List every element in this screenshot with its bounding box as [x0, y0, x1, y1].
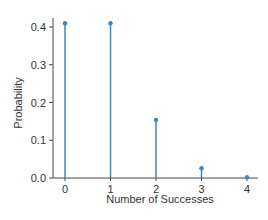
x-tick-label: 4 [244, 183, 250, 195]
stem-chart: 0.00.10.20.30.401234 Number of Successes… [0, 0, 268, 220]
stem-marker [199, 166, 203, 170]
y-axis-title: Probability [12, 77, 24, 129]
y-tick-label: 0.2 [31, 97, 46, 109]
y-tick-label: 0.0 [31, 172, 46, 184]
stem-marker [154, 118, 158, 122]
y-tick-label: 0.3 [31, 59, 46, 71]
stems [63, 21, 249, 179]
y-tick-label: 0.4 [31, 21, 46, 33]
stem-marker [245, 175, 249, 179]
stem-marker [108, 21, 112, 25]
stem-marker [63, 21, 67, 25]
y-tick-label: 0.1 [31, 134, 46, 146]
x-axis-title: Number of Successes [106, 193, 214, 205]
x-tick-label: 0 [62, 183, 68, 195]
